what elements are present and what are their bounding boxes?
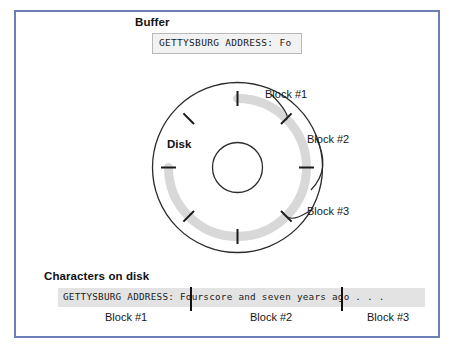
buffer-heading: Buffer <box>135 16 169 28</box>
strip-block-label-1: Block #1 <box>105 311 147 323</box>
strip-block-divider-2 <box>341 287 343 311</box>
strip-block-label-2: Block #2 <box>250 311 292 323</box>
characters-on-disk-strip: GETTYSBURG ADDRESS: Fourscore and seven … <box>58 288 425 307</box>
sector-tick-7 <box>183 113 194 124</box>
disk-label: Disk <box>167 138 191 150</box>
characters-on-disk-heading: Characters on disk <box>44 270 149 282</box>
disk-callout-block-2: Block #2 <box>307 133 349 145</box>
disk-callout-block-3: Block #3 <box>307 205 349 217</box>
buffer-content-text: GETTYSBURG ADDRESS: Fo <box>159 37 291 48</box>
disk-callout-block-1: Block #1 <box>265 88 307 100</box>
strip-block-label-3: Block #3 <box>367 311 409 323</box>
figure-canvas: Buffer GETTYSBURG ADDRESS: Fo Disk <box>0 0 454 346</box>
characters-on-disk-text: GETTYSBURG ADDRESS: Fourscore and seven … <box>63 291 385 302</box>
strip-block-divider-1 <box>190 287 192 311</box>
disk-inner-circle <box>213 143 263 193</box>
buffer-box: GETTYSBURG ADDRESS: Fo <box>152 33 302 54</box>
